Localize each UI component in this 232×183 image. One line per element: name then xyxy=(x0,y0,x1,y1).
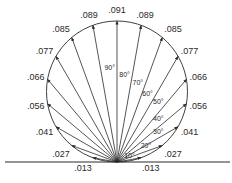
value-label-160: .027 xyxy=(52,149,70,159)
value-label-40: .056 xyxy=(189,101,207,111)
angle-label-50: 50° xyxy=(153,98,164,105)
angle-label-30: 30° xyxy=(153,128,164,135)
angle-label-40: 40° xyxy=(153,115,164,122)
value-label-80: .089 xyxy=(136,10,154,20)
angle-label-80: 80° xyxy=(119,71,130,78)
value-label-30: .041 xyxy=(181,127,199,137)
angle-labels: 10°20°30°40°50°60°70°80°90° xyxy=(104,64,163,159)
angle-label-20: 20° xyxy=(141,142,152,149)
angle-label-70: 70° xyxy=(133,79,144,86)
angle-label-90: 90° xyxy=(104,64,115,71)
value-label-90: .091 xyxy=(108,5,126,15)
value-label-20: .027 xyxy=(164,149,182,159)
value-label-150: .041 xyxy=(36,127,54,137)
ray-group xyxy=(48,21,187,162)
value-label-170: .013 xyxy=(74,163,92,173)
value-label-130: .066 xyxy=(27,72,45,82)
angle-label-60: 60° xyxy=(142,90,153,97)
value-label-100: .089 xyxy=(80,10,98,20)
value-label-60: .077 xyxy=(181,46,199,56)
value-label-120: .077 xyxy=(36,46,54,56)
value-label-10: .013 xyxy=(142,163,160,173)
value-label-50: .066 xyxy=(189,72,207,82)
angle-label-10: 10° xyxy=(124,152,135,159)
polar-diagram: .013.027.041.056.066.077.085.089.091.089… xyxy=(0,0,232,183)
value-label-110: .085 xyxy=(52,24,70,34)
value-label-70: .085 xyxy=(164,24,182,34)
value-label-140: .056 xyxy=(27,101,45,111)
